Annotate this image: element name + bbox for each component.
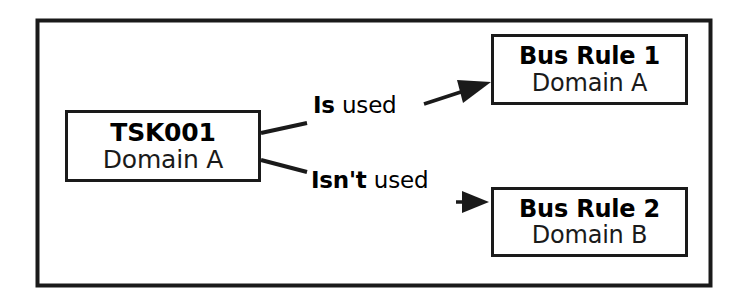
edge-arrow-shaft-is-used [424, 89, 470, 104]
node-bus-rule-1-title: Bus Rule 1 [519, 44, 660, 68]
edge-label-isnt-used-plain: used [367, 167, 429, 193]
node-bus-rule-2-title: Bus Rule 2 [519, 197, 660, 221]
node-task-title: TSK001 [110, 120, 215, 146]
edge-label-is-used-bold: Is [313, 92, 335, 118]
edge-label-isnt-used: Isn't used [311, 167, 428, 193]
node-bus-rule-1[interactable]: Bus Rule 1 Domain A [491, 34, 688, 105]
edge-label-is-used-plain: used [335, 92, 397, 118]
edge-label-isnt-used-bold: Isn't [311, 167, 367, 193]
edge-arrowhead-is-used [457, 80, 491, 103]
connector-stub-lower [261, 160, 307, 172]
node-task-subtitle: Domain A [103, 147, 223, 173]
node-bus-rule-2[interactable]: Bus Rule 2 Domain B [491, 187, 688, 257]
edge-arrowhead-isnt-used [462, 191, 489, 213]
node-bus-rule-2-subtitle: Domain B [532, 223, 648, 247]
node-task[interactable]: TSK001 Domain A [65, 110, 261, 182]
diagram-canvas: TSK001 Domain A Bus Rule 1 Domain A Bus … [0, 0, 743, 299]
connector-stub-upper [261, 123, 307, 133]
node-bus-rule-1-subtitle: Domain A [532, 71, 648, 95]
edge-label-is-used: Is used [313, 92, 396, 118]
